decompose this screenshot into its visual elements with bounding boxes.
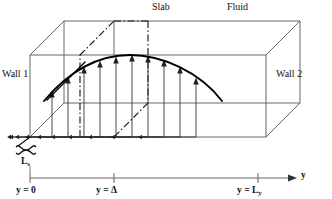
diagram-canvas — [0, 0, 332, 199]
y-axis-arrowhead — [288, 175, 297, 182]
brace-left-half — [16, 146, 26, 154]
brace-leader-line — [18, 137, 30, 146]
slab-region-label: Slab — [152, 2, 170, 12]
axis-label-origin: y = 0 — [16, 186, 36, 196]
axis-label-delta: y = Δ — [96, 186, 117, 196]
wall-1-label: Wall 1 — [2, 69, 28, 79]
axis-label-ly: y = Ly — [237, 186, 262, 196]
box-receding-bottom-right-edge — [266, 103, 300, 137]
interface-edge-top-receding — [80, 21, 114, 55]
wall-2-label: Wall 2 — [276, 69, 302, 79]
slab-thickness-label: Ls — [21, 157, 30, 167]
velocity-arrow-head — [113, 57, 119, 64]
axis-label-ly-main: y = L — [237, 185, 258, 195]
brace-right-half — [26, 146, 36, 154]
box-receding-top-right-edge — [266, 21, 300, 55]
y-axis-name-label: y — [301, 171, 306, 181]
axis-label-ly-subscript: y — [258, 189, 262, 197]
tangent-line — [47, 62, 85, 100]
velocity-arrow-shafts — [52, 59, 196, 137]
velocity-profile-curve — [44, 55, 222, 101]
slab-thickness-subscript: s — [27, 160, 30, 168]
figure-container: Slab Fluid Wall 1 Wall 2 Ls y = 0 y = Δ … — [0, 0, 332, 199]
fluid-region-label: Fluid — [227, 2, 248, 12]
interface-edge-bottom-receding — [114, 103, 148, 137]
box-receding-top-left-edge — [30, 21, 64, 55]
box-receding-bottom-left-edge — [30, 103, 64, 137]
